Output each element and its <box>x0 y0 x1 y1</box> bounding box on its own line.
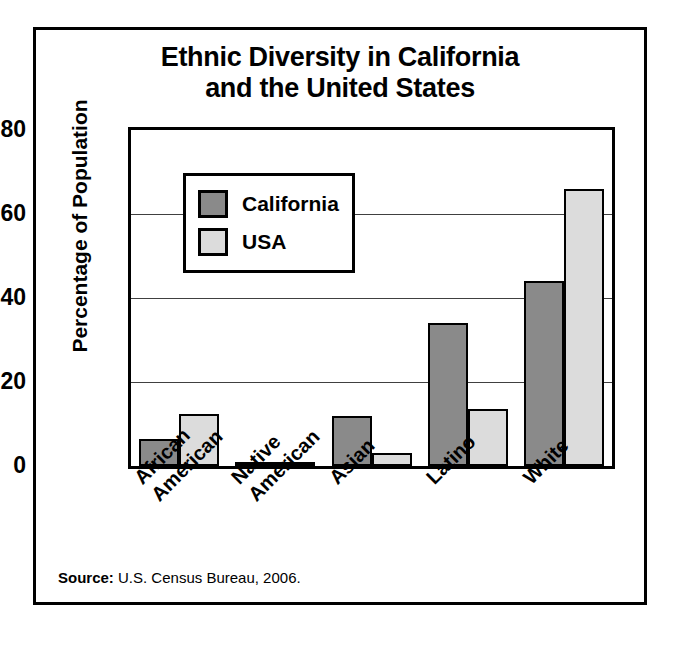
source-label: Source: <box>58 569 114 586</box>
legend-label-usa: USA <box>242 230 286 254</box>
bar-group-white <box>516 130 612 466</box>
y-tick-label-20: 20 <box>0 370 26 393</box>
chart-title-line-1: Ethnic Diversity in California <box>36 42 644 73</box>
bar-usa-asian <box>372 453 412 466</box>
legend-item-california: California <box>198 185 342 223</box>
bar-group-latino <box>420 130 516 466</box>
y-tick-label-60: 60 <box>0 202 26 225</box>
legend-label-california: California <box>242 192 339 216</box>
plot-inner: 020406080 California USA <box>131 130 612 466</box>
legend-swatch-california-icon <box>198 190 228 218</box>
source-text: U.S. Census Bureau, 2006. <box>118 569 301 586</box>
source-note: Source: U.S. Census Bureau, 2006. <box>58 569 301 586</box>
bar-usa-white <box>564 189 604 466</box>
y-axis-title: Percentage of Population <box>68 86 92 366</box>
bar-usa-latino <box>468 409 508 466</box>
chart-title: Ethnic Diversity in California and the U… <box>36 42 644 104</box>
chart-legend: California USA <box>183 173 355 273</box>
legend-item-usa: USA <box>198 223 342 261</box>
y-tick-label-0: 0 <box>0 454 26 477</box>
x-axis-label-white: White <box>518 472 638 496</box>
y-tick-label-80: 80 <box>0 118 26 141</box>
chart-figure: Ethnic Diversity in California and the U… <box>33 27 647 605</box>
legend-swatch-usa-icon <box>198 228 228 256</box>
y-tick-label-40: 40 <box>0 286 26 309</box>
chart-title-line-2: and the United States <box>36 73 644 104</box>
